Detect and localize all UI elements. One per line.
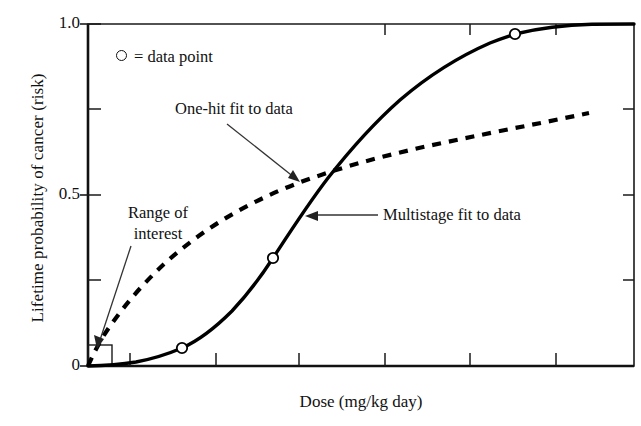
x-axis-ticks [130, 353, 556, 366]
legend-data-point-label: = data point [134, 47, 213, 66]
annotation-range-line2: interest [104, 223, 212, 244]
data-point-markers [177, 29, 520, 353]
chart-plot-svg [0, 0, 641, 426]
annotation-range-of-interest: Range of interest [104, 202, 212, 244]
x-axis-title: Dose (mg/kg day) [88, 392, 634, 412]
y-axis-ticks [88, 24, 101, 280]
chart-figure: 1.0 0.5 0 Lifetime probability of cancer… [0, 0, 641, 426]
annotation-range-line1: Range of [104, 202, 212, 223]
plot-border [88, 24, 634, 366]
range-leader-line [100, 246, 131, 340]
one-hit-arrowhead [288, 170, 300, 182]
right-axis-ticks [623, 109, 634, 280]
one-hit-leader [227, 124, 300, 182]
multistage-curve [88, 24, 634, 366]
range-of-interest-leader [94, 246, 131, 349]
axis-frame [88, 24, 634, 366]
multistage-arrowhead [305, 211, 318, 221]
one-hit-leader-line [227, 124, 295, 178]
data-point-1 [177, 343, 187, 353]
y-axis-title: Lifetime probability of cancer (risk) [28, 18, 48, 378]
annotation-one-hit-fit: One-hit fit to data [175, 98, 293, 119]
legend-data-point: = data point [116, 46, 213, 67]
data-point-2 [268, 253, 278, 263]
annotation-multistage-fit: Multistage fit to data [383, 204, 521, 225]
multistage-leader [305, 211, 378, 221]
open-circle-icon [116, 50, 127, 61]
data-point-3 [510, 29, 520, 39]
